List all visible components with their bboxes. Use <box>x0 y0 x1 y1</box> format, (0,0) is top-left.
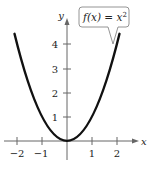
y-tick-label: 2 <box>52 88 58 99</box>
y-axis-label: y <box>57 10 64 21</box>
parabola-chart: −2 −1 1 2 1 2 3 4 x y f(x) = x2 <box>0 0 149 169</box>
function-callout: f(x) = x2 <box>79 7 129 44</box>
y-tick-label: 4 <box>52 39 58 50</box>
x-axis-arrow-icon <box>132 139 139 144</box>
x-axis-label: x <box>141 136 147 147</box>
y-tick-label: 1 <box>52 112 58 123</box>
y-ticks: 1 2 3 4 <box>52 39 71 123</box>
x-tick-label: −1 <box>34 148 49 159</box>
x-tick-label: −2 <box>10 148 25 159</box>
y-axis-arrow-icon <box>65 18 70 25</box>
y-axis <box>65 18 70 160</box>
function-label: f(x) = x2 <box>82 11 127 23</box>
y-tick-label: 3 <box>52 64 58 75</box>
x-tick-label: 2 <box>114 148 120 159</box>
x-tick-label: 1 <box>89 148 95 159</box>
